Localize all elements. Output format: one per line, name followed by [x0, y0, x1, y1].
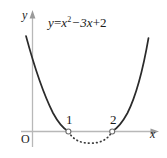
parabola-figure: y=x2−3x+2 y x O 1 2 [0, 0, 167, 158]
x-axis-label: x [150, 128, 155, 140]
parabola-right-branch [112, 38, 148, 131]
root-marker-2 [110, 129, 115, 134]
root-marker-1 [66, 129, 71, 134]
parabola-dashed-arc [69, 132, 112, 143]
x-tick-label-2: 2 [110, 113, 117, 126]
equation-annotation: y=x2−3x+2 [48, 16, 107, 29]
equation-term2: −3x [71, 15, 92, 30]
y-axis-arrow-icon [30, 10, 36, 19]
origin-label: O [21, 133, 30, 145]
equation-term3: +2 [93, 15, 107, 30]
y-axis-label: y [22, 9, 27, 21]
x-tick-label-1: 1 [66, 113, 73, 126]
